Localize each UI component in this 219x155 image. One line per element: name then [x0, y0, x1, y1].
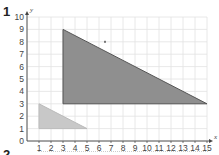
- x-tick-label: 7: [109, 143, 114, 153]
- x-tick-labels: 123456789101112131415: [37, 143, 212, 153]
- x-tick-label: 11: [155, 143, 164, 153]
- y-axis-label: y: [29, 6, 34, 14]
- y-tick-label: 0: [19, 136, 24, 146]
- x-tick-label: 5: [85, 143, 90, 153]
- x-tick-label: 6: [97, 143, 102, 153]
- y-axis-arrow-icon: [25, 11, 29, 15]
- x-tick-label: 12: [166, 143, 176, 153]
- x-tick-label: 15: [202, 143, 212, 153]
- y-tick-label: 9: [19, 24, 24, 34]
- x-axis-label: x: [213, 133, 218, 141]
- x-tick-label: 8: [121, 143, 126, 153]
- y-tick-label: 1: [19, 124, 24, 134]
- x-tick-label: 4: [73, 143, 78, 153]
- x-tick-label: 14: [190, 143, 200, 153]
- x-tick-label: 13: [178, 143, 188, 153]
- y-tick-label: 4: [19, 86, 24, 96]
- y-tick-label: 2: [19, 111, 24, 121]
- x-tick-label: 3: [61, 143, 66, 153]
- x-tick-label: 9: [133, 143, 138, 153]
- x-tick-label: 2: [49, 143, 54, 153]
- coordinate-grid-chart: 123456789101112131415 012345678910 x y: [0, 0, 219, 155]
- x-tick-label: 1: [37, 143, 42, 153]
- y-tick-label: 7: [19, 49, 24, 59]
- y-tick-label: 5: [19, 74, 24, 84]
- y-tick-labels: 012345678910: [15, 12, 25, 146]
- marked-point: [104, 41, 106, 43]
- y-tick-label: 8: [19, 37, 24, 47]
- y-tick-label: 10: [15, 12, 25, 22]
- y-tick-label: 3: [19, 99, 24, 109]
- x-tick-label: 10: [142, 143, 152, 153]
- y-tick-label: 6: [19, 62, 24, 72]
